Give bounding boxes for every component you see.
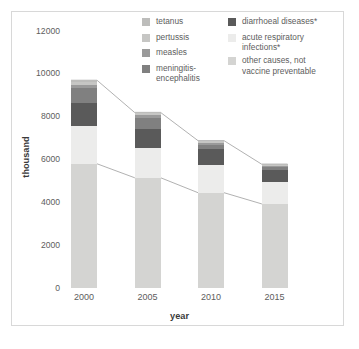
bars-layer <box>0 0 359 349</box>
bar-segment-2010-acute-respiratory-infections[interactable] <box>198 165 224 192</box>
x-axis-tick-2000: 2000 <box>62 292 106 302</box>
bar-2015[interactable] <box>262 164 288 288</box>
x-axis-tick-2005: 2005 <box>126 292 170 302</box>
stacked-bar-chart-figure: tetanus pertussis measles meningitis- en… <box>0 0 359 349</box>
bar-segment-2000-other-causes-not-vaccine-preventable[interactable] <box>71 164 97 288</box>
bar-segment-2015-diarrhoeal-diseases[interactable] <box>262 170 288 182</box>
bar-segment-2010-diarrhoeal-diseases[interactable] <box>198 149 224 165</box>
bar-segment-2005-acute-respiratory-infections[interactable] <box>135 148 161 178</box>
bar-segment-2000-acute-respiratory-infections[interactable] <box>71 126 97 163</box>
bar-segment-2000-diarrhoeal-diseases[interactable] <box>71 103 97 127</box>
bar-segment-2015-other-causes-not-vaccine-preventable[interactable] <box>262 204 288 288</box>
bar-2000[interactable] <box>71 80 97 288</box>
bar-segment-2005-meningitis-encephalitis[interactable] <box>135 118 161 128</box>
bar-segment-2015-acute-respiratory-infections[interactable] <box>262 182 288 204</box>
bar-2005[interactable] <box>135 112 161 288</box>
x-axis-label: year <box>0 311 359 321</box>
x-axis-tick-2010: 2010 <box>189 292 233 302</box>
bar-segment-2000-meningitis-encephalitis[interactable] <box>71 88 97 103</box>
bar-segment-2005-diarrhoeal-diseases[interactable] <box>135 129 161 148</box>
x-axis-tick-2015: 2015 <box>253 292 297 302</box>
bar-2010[interactable] <box>198 141 224 288</box>
bar-segment-2010-other-causes-not-vaccine-preventable[interactable] <box>198 193 224 288</box>
bar-segment-2005-other-causes-not-vaccine-preventable[interactable] <box>135 178 161 288</box>
